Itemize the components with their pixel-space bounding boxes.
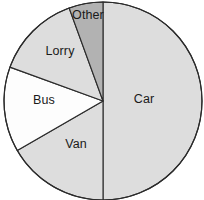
pie-slice-label-lorry: Lorry: [46, 45, 75, 58]
pie-slice-label-car: Car: [134, 93, 154, 106]
pie-slice-label-van: Van: [65, 138, 87, 151]
pie-slice-label-other: Other: [72, 9, 104, 22]
pie-chart: CarVanBusLorryOther: [0, 0, 204, 200]
pie-slice-label-bus: Bus: [33, 94, 55, 107]
pie-chart-canvas: [0, 0, 204, 200]
